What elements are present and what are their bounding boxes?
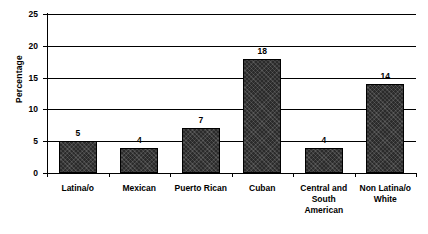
x-tick-mark: [293, 173, 294, 177]
y-tick-label: 25: [10, 10, 38, 19]
bar: [366, 84, 404, 173]
x-tick-mark: [47, 173, 48, 177]
x-category-label: Puerto Rican: [170, 183, 232, 194]
x-tick-mark: [416, 173, 417, 177]
y-tick-mark: [43, 109, 47, 110]
x-category-label: Non Latina/oWhite: [355, 183, 417, 205]
x-category-label: Central andSouthAmerican: [293, 183, 355, 216]
gridline: [47, 109, 416, 110]
bar: [305, 148, 343, 173]
x-label-line: Puerto Rican: [170, 183, 232, 194]
y-tick-label: 0: [10, 169, 38, 178]
gridline: [47, 46, 416, 47]
bar: [59, 141, 97, 173]
y-tick-label: 10: [10, 105, 38, 114]
x-label-line: Non Latina/o: [355, 183, 417, 194]
x-label-line: Latina/o: [47, 183, 109, 194]
bar-chart: Percentage 0510152025 54718414 Latina/oM…: [0, 0, 428, 234]
plot-area: [47, 14, 416, 173]
bar-value-label: 7: [181, 116, 221, 125]
y-tick-label: 20: [10, 42, 38, 51]
gridline: [47, 14, 416, 15]
bar-value-label: 5: [58, 129, 98, 138]
bar-value-label: 18: [242, 47, 282, 56]
bar: [182, 128, 220, 173]
x-tick-mark: [232, 173, 233, 177]
bar: [120, 148, 158, 173]
bar: [243, 59, 281, 173]
y-tick-mark: [43, 141, 47, 142]
bar-value-label: 14: [365, 72, 405, 81]
x-label-line: White: [355, 194, 417, 205]
x-category-label: Latina/o: [47, 183, 109, 194]
x-label-line: Central and: [293, 183, 355, 194]
gridline: [47, 78, 416, 79]
bar-value-label: 4: [119, 136, 159, 145]
gridline: [47, 141, 416, 142]
y-tick-mark: [43, 46, 47, 47]
x-label-line: South: [293, 194, 355, 205]
y-tick-mark: [43, 14, 47, 15]
x-label-line: Cuban: [232, 183, 294, 194]
x-tick-mark: [170, 173, 171, 177]
y-tick-mark: [43, 78, 47, 79]
y-tick-label: 5: [10, 137, 38, 146]
x-tick-mark: [109, 173, 110, 177]
x-tick-mark: [355, 173, 356, 177]
x-category-label: Mexican: [109, 183, 171, 194]
x-label-line: American: [293, 205, 355, 216]
x-category-label: Cuban: [232, 183, 294, 194]
y-tick-label: 15: [10, 74, 38, 83]
x-label-line: Mexican: [109, 183, 171, 194]
bar-value-label: 4: [304, 136, 344, 145]
